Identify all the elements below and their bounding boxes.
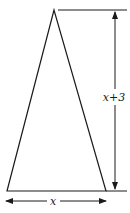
triangle-shape <box>7 10 106 191</box>
base-label: x <box>50 195 57 208</box>
height-label: x+3 <box>103 91 125 104</box>
triangle-diagram: x+3 x <box>0 0 130 213</box>
